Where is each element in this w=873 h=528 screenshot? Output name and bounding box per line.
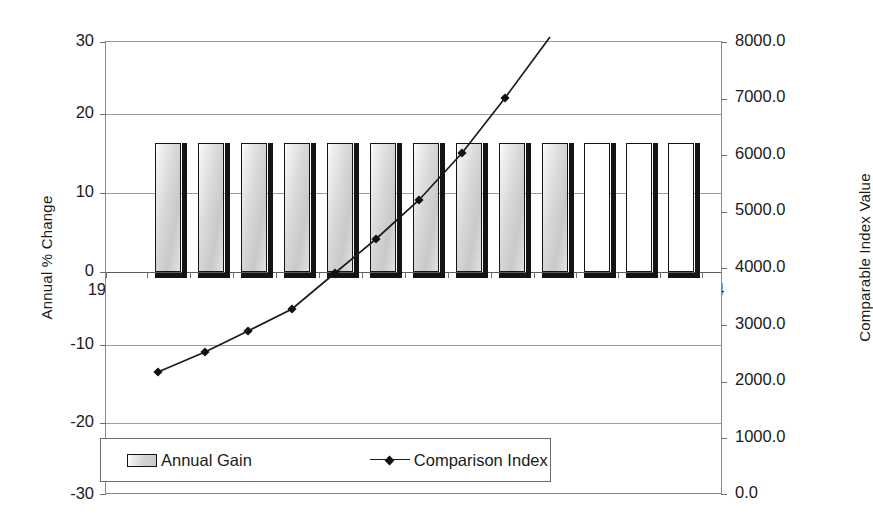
legend: Annual Gain Comparison Index bbox=[100, 438, 551, 482]
plot-area bbox=[105, 41, 722, 494]
diamond-marker bbox=[384, 455, 394, 465]
comparison-index-polyline bbox=[158, 37, 550, 372]
y-right-tick-5000: 5000.0 bbox=[735, 201, 845, 218]
y-axis-right-title: Comparable Index Value bbox=[856, 108, 873, 408]
y-right-tick-8000: 8000.0 bbox=[735, 32, 845, 49]
y-left-tick-neg10: -10 bbox=[2, 335, 94, 352]
line-marker-1993 bbox=[243, 326, 252, 335]
y-axis-left-title: Annual % Change bbox=[38, 108, 55, 408]
legend-item-annual-gain[interactable]: Annual Gain bbox=[127, 451, 252, 470]
line-marker-1992 bbox=[200, 347, 209, 356]
line-diamond-icon bbox=[370, 454, 410, 466]
y-left-tick-neg20: -20 bbox=[2, 413, 94, 430]
y-right-tick-7000: 7000.0 bbox=[735, 88, 845, 105]
y-left-tick-20: 20 bbox=[2, 104, 94, 121]
legend-label-annual-gain: Annual Gain bbox=[161, 451, 252, 470]
y-left-tick-0: 0 bbox=[2, 262, 94, 279]
legend-item-comparison-index[interactable]: Comparison Index bbox=[370, 451, 548, 470]
y-left-tick-neg30: -30 bbox=[2, 485, 94, 502]
y-right-tick-1000: 1000.0 bbox=[735, 428, 845, 445]
comparison-index-line-series bbox=[106, 42, 723, 495]
y-right-tick-6000: 6000.0 bbox=[735, 145, 845, 162]
y-right-tick-2000: 2000.0 bbox=[735, 371, 845, 388]
y-right-tick-0: 0.0 bbox=[735, 484, 845, 501]
legend-label-comparison-index: Comparison Index bbox=[414, 451, 548, 470]
bar-swatch-icon bbox=[127, 454, 157, 467]
y-right-tick-4000: 4000.0 bbox=[735, 258, 845, 275]
y-right-tick-3000: 3000.0 bbox=[735, 315, 845, 332]
y-left-tick-30: 30 bbox=[2, 32, 94, 49]
y-left-tick-10: 10 bbox=[2, 183, 94, 200]
line-marker-1991 bbox=[153, 367, 162, 376]
